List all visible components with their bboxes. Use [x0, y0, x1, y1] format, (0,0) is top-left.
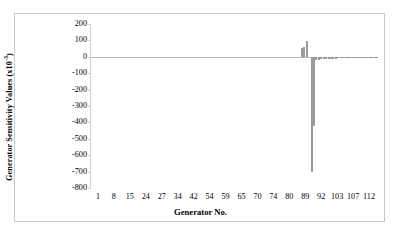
x-axis-tick-label: 27 — [158, 192, 166, 201]
y-axis-tick-mark — [88, 106, 91, 107]
x-axis-tick-label: 54 — [205, 192, 213, 201]
y-axis-tick-label: -600 — [53, 151, 87, 159]
y-axis-tick-mark — [88, 122, 91, 123]
y-axis-tick-label: -500 — [53, 135, 87, 143]
y-axis-tick-label: -700 — [53, 168, 87, 176]
y-axis-tick-mark — [88, 188, 91, 189]
x-axis-tick-label: 74 — [269, 192, 277, 201]
y-axis-tick-mark — [88, 139, 91, 140]
y-axis-title-text: Generator Sensitivity Values (x10 — [5, 61, 14, 181]
x-axis-tick-labels: 1815242734425459657074808992103107112 — [90, 192, 378, 204]
x-axis-tick-label: 103 — [331, 192, 343, 201]
y-axis-tick-label: -800 — [53, 184, 87, 192]
x-axis-tick-label: 70 — [253, 192, 261, 201]
x-axis-tick-label: 107 — [347, 192, 359, 201]
x-axis-tick-label: 24 — [142, 192, 150, 201]
x-axis-tick-label: 34 — [174, 192, 182, 201]
y-axis-tick-label: 200 — [53, 20, 87, 28]
y-axis-tick-mark — [88, 40, 91, 41]
x-axis-tick-label: 112 — [363, 192, 375, 201]
y-axis-tick-label: 100 — [53, 36, 87, 44]
y-axis-tick-mark — [88, 90, 91, 91]
y-axis-tick-labels: 2001000-100-200-300-400-500-600-700-800 — [53, 22, 87, 188]
x-axis-tick-label: 80 — [285, 192, 293, 201]
x-axis-tick-label: 8 — [112, 192, 116, 201]
x-axis-tick-label: 1 — [96, 192, 100, 201]
chart-figure: Generator Sensitivity Values (x10-3) 200… — [14, 13, 385, 222]
y-axis-title-suffix: ) — [5, 53, 14, 56]
y-axis-tick-label: 0 — [53, 53, 87, 61]
x-axis-title: Generator No. — [15, 207, 386, 217]
x-axis-tick-label: 65 — [237, 192, 245, 201]
x-axis-tick-label: 15 — [126, 192, 134, 201]
y-axis-tick-mark — [88, 57, 91, 58]
x-axis-tick-label: 89 — [301, 192, 309, 201]
bar — [306, 41, 308, 57]
y-axis-title-exponent: -3 — [3, 56, 9, 61]
y-axis-title: Generator Sensitivity Values (x10-3) — [3, 42, 17, 192]
y-axis-tick-label: -400 — [53, 118, 87, 126]
plot-area — [90, 24, 378, 188]
bar — [376, 57, 378, 58]
y-axis-tick-label: -200 — [53, 86, 87, 94]
y-axis-tick-mark — [88, 24, 91, 25]
y-axis-tick-mark — [88, 155, 91, 156]
y-axis-tick-mark — [88, 172, 91, 173]
y-axis-tick-mark — [88, 73, 91, 74]
y-axis-tick-label: -300 — [53, 102, 87, 110]
bar-series — [91, 24, 378, 188]
bar — [313, 57, 315, 126]
x-axis-tick-label: 59 — [221, 192, 229, 201]
x-axis-tick-label: 92 — [317, 192, 325, 201]
x-axis-tick-label: 42 — [190, 192, 198, 201]
y-axis-tick-label: -100 — [53, 69, 87, 77]
